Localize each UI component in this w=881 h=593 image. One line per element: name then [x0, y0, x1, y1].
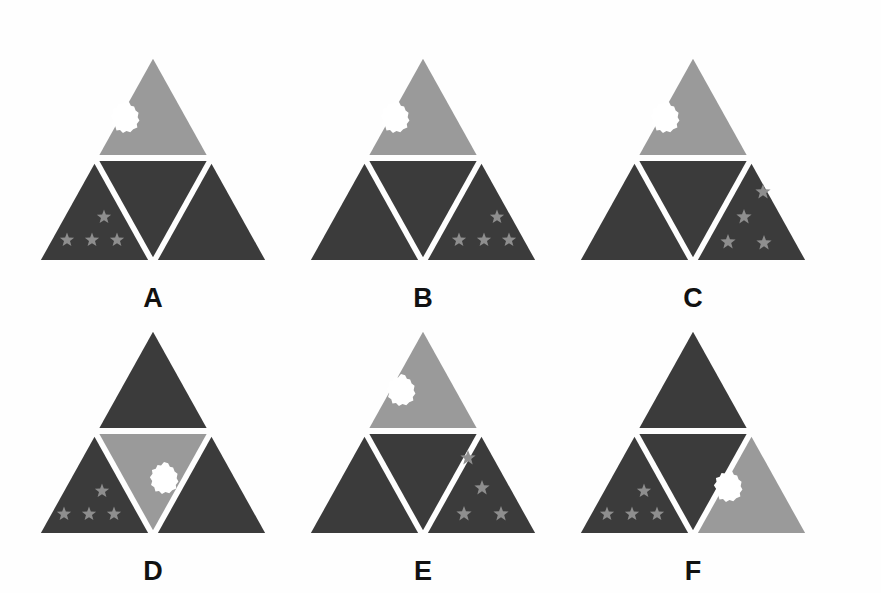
panel-a: A — [28, 40, 298, 330]
flag-triangle-d — [28, 318, 278, 548]
panel-d: D — [28, 310, 298, 593]
flag-triangle-a — [28, 45, 278, 275]
flag-triangle-b — [298, 45, 548, 275]
panel-e: E — [298, 310, 568, 593]
panel-b: B — [298, 40, 568, 330]
figure-panel-grid: ABCDEF — [0, 0, 881, 593]
panel-f: F — [568, 310, 838, 593]
flag-triangle-c — [568, 45, 818, 275]
panel-label-d: D — [28, 556, 278, 587]
sub-triangle-top — [639, 332, 746, 428]
sub-triangle-top — [369, 59, 476, 155]
panel-label-f: F — [568, 556, 818, 587]
sub-triangle-top — [99, 332, 206, 428]
panel-c: C — [568, 40, 838, 330]
flag-triangle-f — [568, 318, 818, 548]
sub-triangle-top — [99, 59, 206, 155]
panel-label-e: E — [298, 556, 548, 587]
sub-triangle-top — [639, 59, 746, 155]
flag-triangle-e — [298, 318, 548, 548]
sub-triangle-top — [369, 332, 476, 428]
